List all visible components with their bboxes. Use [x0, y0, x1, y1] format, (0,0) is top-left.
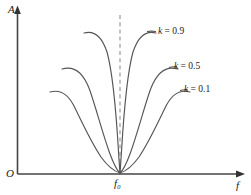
curve-label-k-0-9: k = 0.9 [158, 27, 184, 37]
y-axis [14, 6, 21, 175]
curve-label-k-symbol-0-9: k [158, 26, 162, 36]
curve-label-k-symbol-0-5: k [174, 61, 178, 71]
chart-figure: A O f f₀ k = 0.9 k = 0.5 k = 0.1 [0, 0, 251, 195]
curve-k-0-5 [62, 68, 178, 173]
x-axis [18, 171, 246, 178]
plot-area [0, 0, 251, 195]
curve-label-k-0-1: k = 0.1 [184, 85, 210, 95]
curve-label-value-0-1: = 0.1 [191, 84, 211, 94]
y-axis-label: A [8, 4, 15, 15]
curve-label-k-0-5: k = 0.5 [174, 62, 200, 72]
origin-label: O [6, 168, 14, 179]
curve-label-value-0-5: = 0.5 [181, 61, 201, 71]
x-tick-label-f0: f₀ [114, 178, 121, 189]
curve-label-value-0-9: = 0.9 [165, 26, 185, 36]
curve-label-k-symbol-0-1: k [184, 84, 188, 94]
x-axis-label: f [236, 180, 239, 191]
